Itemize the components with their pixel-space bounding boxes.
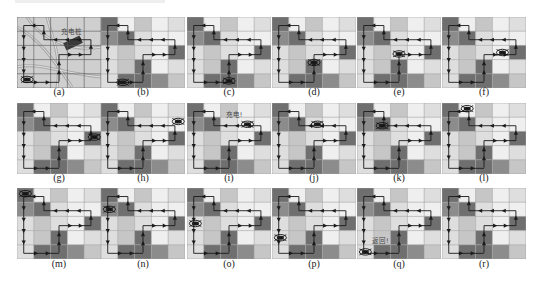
grid-cell xyxy=(168,45,185,59)
grid-cell xyxy=(118,231,135,245)
grid-cell xyxy=(357,60,374,74)
grid-cell xyxy=(254,45,271,59)
grid-cell xyxy=(322,231,339,245)
grid-cell xyxy=(442,117,459,131)
grid-cell xyxy=(272,117,289,131)
grid-cell xyxy=(492,188,509,202)
grid-cell xyxy=(391,202,408,216)
grid-cell xyxy=(187,60,204,74)
panel-caption-q: (q) xyxy=(357,258,441,270)
grid-cell xyxy=(168,231,185,245)
grid-cell xyxy=(407,245,424,259)
grid-cell xyxy=(272,146,289,160)
grid-cell xyxy=(391,103,408,117)
grid-cell xyxy=(17,245,34,259)
grid-cell xyxy=(459,202,476,216)
grid-cell xyxy=(374,216,391,230)
grid-cell xyxy=(17,216,34,230)
grid-cell xyxy=(254,202,271,216)
grid-cell xyxy=(509,103,526,117)
grid-cell xyxy=(272,202,289,216)
grid-cell xyxy=(254,188,271,202)
grid-cell xyxy=(237,31,254,45)
panel-i: 充电! xyxy=(187,103,271,174)
grid-cell xyxy=(339,117,356,131)
grid-cell xyxy=(34,117,51,131)
grid-cell xyxy=(84,245,101,259)
grid-cell xyxy=(459,17,476,31)
grid-cell xyxy=(237,216,254,230)
grid-cell xyxy=(272,245,289,259)
grid-cell xyxy=(51,188,68,202)
grid-cell xyxy=(459,117,476,131)
grid-cell xyxy=(492,202,509,216)
grid-cell xyxy=(84,202,101,216)
grid-cell xyxy=(187,45,204,59)
grid-cell xyxy=(237,131,254,145)
grid-cell xyxy=(168,216,185,230)
grid-cell xyxy=(509,202,526,216)
grid-cell xyxy=(492,17,509,31)
grid-cell xyxy=(168,146,185,160)
grid-cell xyxy=(237,45,254,59)
grid-cell xyxy=(442,45,459,59)
grid-cell xyxy=(322,131,339,145)
grid-cell xyxy=(67,103,84,117)
grid-cell xyxy=(289,231,306,245)
grid-cell xyxy=(272,60,289,74)
grid-cell xyxy=(459,45,476,59)
grid-cell xyxy=(322,17,339,31)
grid-cell xyxy=(476,103,493,117)
grid-cell xyxy=(357,202,374,216)
grid-cell xyxy=(322,117,339,131)
grid-cell xyxy=(34,202,51,216)
grid-cell xyxy=(204,202,221,216)
grid-cell xyxy=(151,117,168,131)
grid-cell xyxy=(101,216,118,230)
grid-cell xyxy=(118,103,135,117)
grid-cell xyxy=(237,245,254,259)
grid-cell xyxy=(254,216,271,230)
grid-cell xyxy=(272,131,289,145)
grid-cell xyxy=(424,245,441,259)
grid-cell xyxy=(424,202,441,216)
grid-cell xyxy=(407,45,424,59)
grid-cell xyxy=(101,146,118,160)
grid-cell xyxy=(374,188,391,202)
grid-cell xyxy=(118,60,135,74)
grid-cell xyxy=(306,188,323,202)
grid-cell xyxy=(151,103,168,117)
grid-cell xyxy=(357,131,374,145)
grid-cell xyxy=(509,31,526,45)
grid-cell xyxy=(339,216,356,230)
grid-cell xyxy=(442,216,459,230)
grid-cell xyxy=(357,31,374,45)
grid-cell xyxy=(289,131,306,145)
grid-cell xyxy=(391,17,408,31)
grid-cell xyxy=(101,45,118,59)
grid-cell xyxy=(374,60,391,74)
grid-cell xyxy=(187,245,204,259)
grid-cell xyxy=(67,202,84,216)
grid-cell xyxy=(151,17,168,31)
grid-cell xyxy=(391,188,408,202)
grid-cell xyxy=(424,117,441,131)
grid-cell xyxy=(151,31,168,45)
panel-caption-p: (p) xyxy=(272,258,356,270)
grid-cell xyxy=(339,202,356,216)
grid-cell xyxy=(357,17,374,31)
grid-cell xyxy=(459,245,476,259)
grid-cell xyxy=(459,131,476,145)
grid-cell xyxy=(101,188,118,202)
grid-cell xyxy=(17,202,34,216)
grid-cell xyxy=(289,188,306,202)
grid-cell xyxy=(492,60,509,74)
grid-cell xyxy=(67,117,84,131)
grid-cell xyxy=(289,45,306,59)
panel-j xyxy=(272,103,356,174)
panel-caption-n: (n) xyxy=(101,258,185,270)
grid-cell xyxy=(407,103,424,117)
grid-cell xyxy=(187,188,204,202)
panel-n xyxy=(101,188,185,259)
grid-cell xyxy=(424,45,441,59)
